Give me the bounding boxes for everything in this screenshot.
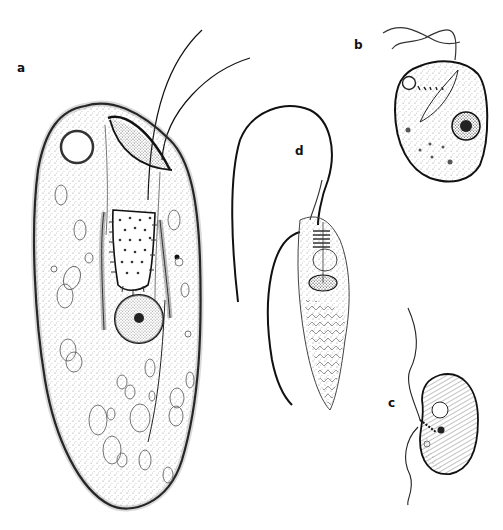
vacuole [432, 402, 448, 418]
panel-label-d: d [295, 145, 304, 157]
cell-body [34, 104, 201, 509]
cell-a [34, 30, 250, 509]
vacuole [403, 77, 416, 90]
panel-label-c: c [388, 397, 395, 409]
nucleolus [134, 313, 144, 323]
panel-label-b: b [354, 39, 363, 51]
figure-plate: a b c d [0, 0, 503, 530]
flagellum [408, 308, 420, 420]
contractile-vacuole [61, 131, 93, 163]
flagellum [406, 427, 418, 505]
trailing-flagellum [268, 232, 300, 405]
cell-d [232, 106, 349, 410]
panel-label-a: a [17, 62, 25, 74]
nucleus [438, 427, 445, 434]
cell-c [406, 308, 478, 505]
feeding-apparatus [113, 210, 155, 290]
cell-b [383, 28, 487, 182]
illustration [0, 0, 503, 530]
